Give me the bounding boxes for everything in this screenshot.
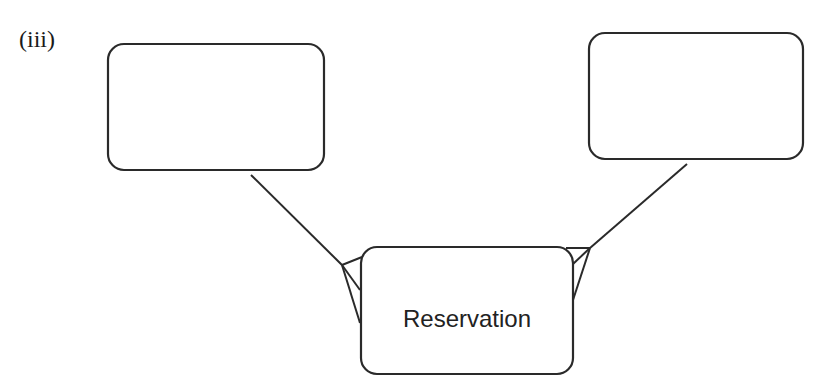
relationship-left-to-reservation[interactable] <box>251 175 362 323</box>
left-entity[interactable] <box>108 44 324 170</box>
reservation-entity-label: Reservation <box>403 305 531 332</box>
relationship-right-to-reservation[interactable] <box>566 164 687 300</box>
crows-foot-left-icon <box>342 257 362 323</box>
right-entity[interactable] <box>589 33 803 159</box>
reservation-entity[interactable]: Reservation <box>361 247 573 374</box>
er-diagram: Reservation <box>0 0 825 389</box>
